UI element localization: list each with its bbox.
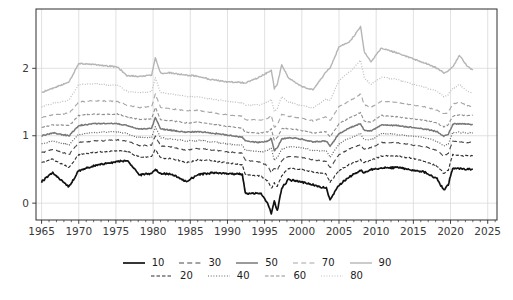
figure: 1965197019751980198519901995200020052010… [0,0,513,300]
legend-item-90: 90 [349,258,392,268]
legend-item-50: 50 [235,258,278,268]
legend-label-10: 10 [152,258,165,268]
legend-row-2: 20406080 [143,271,370,281]
x-tick-label-1975: 1975 [103,225,130,237]
legend-label-60: 60 [294,271,307,281]
legend-line-sample-70 [292,258,316,268]
x-tick-label-2020: 2020 [437,225,464,237]
legend-line-sample-10 [122,258,146,268]
legend-line-sample-80 [320,271,344,281]
legend-label-40: 40 [237,271,250,281]
x-tick-label-2000: 2000 [288,225,315,237]
legend-line-sample-30 [178,258,202,268]
legend-label-20: 20 [180,271,193,281]
x-tick-label-1980: 1980 [140,225,167,237]
y-tick-label-0: 0 [22,197,29,209]
x-tick-label-1990: 1990 [214,225,241,237]
legend-item-60: 60 [264,271,307,281]
percentile-line-chart: 1965197019751980198519901995200020052010… [0,0,513,250]
series-line-p10 [42,160,473,214]
legend-item-20: 20 [150,271,193,281]
series-line-p50 [42,118,473,151]
y-tick-label-2: 2 [22,62,29,74]
plot-frame [36,9,497,220]
x-tick-label-1985: 1985 [177,225,204,237]
legend-line-sample-60 [264,271,288,281]
legend-item-30: 30 [178,258,221,268]
y-tick-label-1: 1 [22,129,29,141]
x-tick-label-2005: 2005 [326,225,353,237]
series-line-p70 [42,94,473,127]
legend-item-40: 40 [207,271,250,281]
legend-line-sample-90 [349,258,373,268]
x-tick-label-2025: 2025 [474,225,501,237]
x-tick-label-2015: 2015 [400,225,427,237]
legend-line-sample-50 [235,258,259,268]
chart-legend: 1030507090 20406080 [0,258,513,281]
series-line-p80 [42,60,473,111]
legend-line-sample-20 [150,271,174,281]
legend-label-70: 70 [322,258,335,268]
legend-item-10: 10 [122,258,165,268]
x-tick-label-2010: 2010 [363,225,390,237]
x-tick-label-1970: 1970 [65,225,92,237]
legend-label-80: 80 [350,271,363,281]
x-tick-label-1965: 1965 [28,225,55,237]
series-line-p30 [42,136,473,173]
legend-label-90: 90 [379,258,392,268]
legend-label-30: 30 [208,258,221,268]
legend-item-80: 80 [320,271,363,281]
legend-label-50: 50 [265,258,278,268]
x-tick-label-1995: 1995 [251,225,278,237]
legend-line-sample-40 [207,271,231,281]
legend-row-1: 1030507090 [115,258,399,268]
series-line-p40 [42,127,473,161]
legend-item-70: 70 [292,258,335,268]
